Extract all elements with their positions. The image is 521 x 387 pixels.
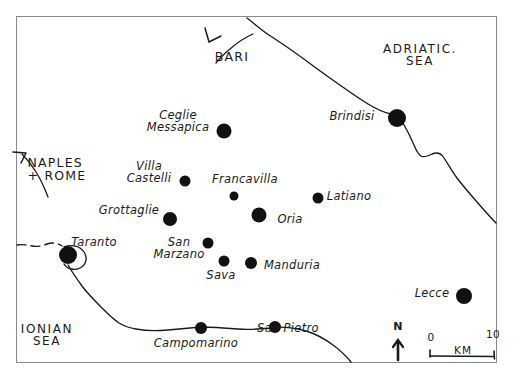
city-label-grottaglie: Grottaglie bbox=[99, 205, 160, 217]
city-label-villa-castelli: Villa Castelli bbox=[127, 161, 172, 184]
city-dot-oria[interactable] bbox=[252, 208, 267, 223]
city-dot-manduria[interactable] bbox=[245, 257, 257, 269]
direction-label-bari: BARI bbox=[215, 51, 249, 64]
city-label-sava: Sava bbox=[206, 270, 235, 282]
city-label-latiano: Latiano bbox=[327, 191, 372, 203]
city-label-taranto: Taranto bbox=[71, 237, 117, 249]
scale-bar-line bbox=[430, 356, 494, 357]
city-label-manduria: Manduria bbox=[264, 260, 320, 272]
city-label-lecce: Lecce bbox=[415, 288, 450, 300]
direction-label-naples-rome: NAPLES + ROME bbox=[28, 157, 87, 183]
sea-label-ionian-sea: IONIAN SEA bbox=[21, 323, 73, 347]
city-label-francavilla: Francavilla bbox=[212, 174, 278, 186]
city-dot-brindisi[interactable] bbox=[388, 109, 406, 127]
city-label-san-pietro: San Pietro bbox=[257, 323, 319, 335]
city-dot-francavilla[interactable] bbox=[230, 192, 239, 201]
scale-bar-tick-right bbox=[494, 351, 495, 359]
city-dot-campomarino[interactable] bbox=[195, 322, 207, 334]
city-dot-lecce[interactable] bbox=[456, 288, 472, 304]
city-dot-ceglie-messapica[interactable] bbox=[217, 124, 232, 139]
city-dot-sava[interactable] bbox=[219, 256, 230, 267]
map-frame-border bbox=[16, 16, 497, 363]
scale-zero-label: 0 bbox=[428, 332, 435, 343]
scale-unit-label: KM bbox=[454, 345, 472, 356]
city-label-ceglie-messapica: Ceglie Messapica bbox=[147, 110, 210, 133]
hand-drawn-map: BrindisiCeglie MessapicaVilla CastelliFr… bbox=[0, 0, 521, 387]
city-dot-grottaglie[interactable] bbox=[163, 212, 177, 226]
city-dot-latiano[interactable] bbox=[313, 193, 324, 204]
city-label-brindisi: Brindisi bbox=[329, 111, 374, 123]
scale-ten-label: 10 bbox=[486, 329, 500, 340]
city-label-campomarino: Campomarino bbox=[154, 338, 238, 350]
city-dot-villa-castelli[interactable] bbox=[180, 176, 191, 187]
sea-label-adriatic-sea: ADRIATIC. SEA bbox=[383, 43, 457, 67]
city-label-san-marzano: San Marzano bbox=[153, 237, 204, 260]
city-label-oria: Oria bbox=[277, 214, 302, 226]
